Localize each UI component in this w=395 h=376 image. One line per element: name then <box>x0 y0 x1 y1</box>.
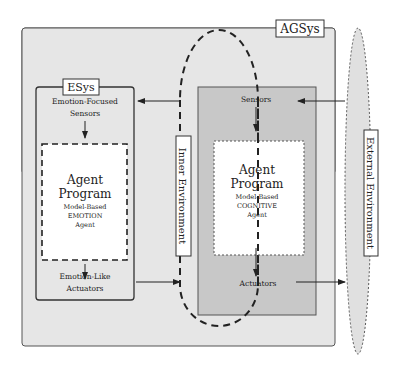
cognitive-program-title-1: Agent <box>238 163 275 177</box>
cognitive-program-sub-1: Model-Based <box>236 193 279 201</box>
cognitive-sensors-label: Sensors <box>241 95 271 104</box>
esys-actuators-label-2: Actuators <box>66 284 104 293</box>
external-environment-label: External Environment <box>365 137 376 249</box>
emotion-program-title-1: Agent <box>66 173 103 187</box>
esys-sensors-label-1: Emotion-Focused <box>52 97 118 106</box>
cognitive-actuators-label: Actuators <box>239 279 277 288</box>
esys-label: ESys <box>67 81 95 94</box>
diagram-canvas: AGSys ESys Emotion-Focused Sensors Agent… <box>0 0 395 376</box>
emotion-program-sub-1: Model-Based <box>64 203 107 211</box>
agsys-label: AGSys <box>279 22 319 36</box>
emotion-program-box <box>42 144 127 260</box>
emotion-program-sub-3: Agent <box>74 221 95 229</box>
emotion-program-title-2: Program <box>59 187 113 201</box>
esys-actuators-label-1: Emotion-Like <box>60 272 111 281</box>
cognitive-program-title-2: Program <box>231 177 285 191</box>
esys-sensors-label-2: Sensors <box>70 109 100 118</box>
emotion-program-sub-2: EMOTION <box>68 212 103 220</box>
cognitive-program-sub-3: Agent <box>246 211 267 219</box>
cognitive-program-sub-2: COGNITIVE <box>237 202 277 210</box>
inner-environment-label: Inner Environment <box>177 148 188 244</box>
